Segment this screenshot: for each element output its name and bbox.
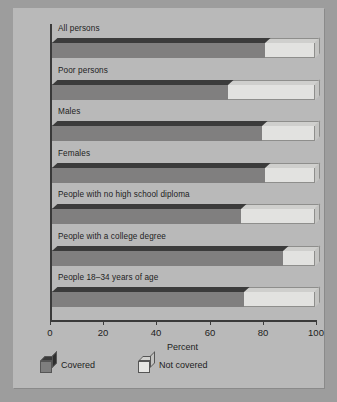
legend-entry-not-covered: Not covered (138, 353, 208, 377)
bar-covered-top-face (52, 163, 271, 168)
stacked-bar (52, 121, 315, 143)
bar-segment-covered (52, 84, 228, 100)
bar-segment-covered (52, 42, 265, 58)
stacked-bar (52, 204, 315, 226)
bar-not-covered-side-face (315, 79, 320, 100)
bar-covered-top-face (52, 80, 234, 85)
bar-group-label: Males (52, 103, 80, 120)
stacked-bar (52, 246, 315, 268)
stacked-bar (52, 163, 315, 185)
bar-segment-covered (52, 291, 244, 307)
scanned-page: All personsPoor personsMalesFemalesPeopl… (13, 8, 324, 388)
bar-group-label: People 18–34 years of age (52, 269, 158, 286)
bar-covered-top-face (52, 287, 250, 292)
legend-label-covered: Covered (61, 360, 95, 370)
bar-group: Poor persons (52, 62, 315, 103)
bar-segment-covered (52, 250, 283, 266)
bar-group: People with a college degree (52, 228, 315, 269)
covered-swatch-cube-icon (40, 356, 54, 374)
bar-not-covered-side-face (315, 286, 320, 307)
x-axis-title: Percent (25, 342, 315, 352)
bar-not-covered-side-face (315, 245, 320, 266)
x-axis-tick-label: 100 (308, 327, 324, 338)
x-axis-tick (50, 320, 51, 325)
bar-covered-top-face (52, 246, 289, 251)
x-axis-tick-label: 60 (205, 327, 216, 338)
legend-entry-covered: Covered (40, 353, 95, 377)
stacked-bar (52, 38, 315, 60)
bar-not-covered-side-face (315, 203, 320, 224)
x-axis-tick (103, 320, 104, 325)
x-axis-tick-label: 20 (98, 327, 109, 338)
bar-group-label: Females (52, 145, 90, 162)
bar-covered-top-face (52, 204, 247, 209)
x-axis-line (50, 320, 316, 322)
bar-group: All persons (52, 20, 315, 61)
bar-not-covered-side-face (315, 120, 320, 141)
x-axis-tick-label: 40 (151, 327, 162, 338)
chart-plot-area: All personsPoor personsMalesFemalesPeopl… (25, 20, 315, 320)
bar-covered-top-face (52, 38, 271, 43)
bar-segment-covered (52, 167, 265, 183)
bar-group: People 18–34 years of age (52, 269, 315, 310)
bar-covered-top-face (52, 121, 268, 126)
bar-segment-covered (52, 208, 241, 224)
bar-segment-covered (52, 125, 262, 141)
bar-group: Males (52, 103, 315, 144)
x-axis-tick-label: 0 (47, 327, 52, 338)
x-axis-tick (316, 320, 317, 325)
x-axis-tick-label: 80 (258, 327, 269, 338)
bar-not-covered-side-face (315, 37, 320, 58)
legend-label-not-covered: Not covered (159, 360, 208, 370)
x-axis-tick (210, 320, 211, 325)
chart-legend: Covered Not covered (38, 353, 318, 379)
bar-group-label: All persons (52, 20, 100, 37)
stacked-bar (52, 287, 315, 309)
not-covered-swatch-cube-icon (138, 356, 152, 374)
bar-group: People with no high school diploma (52, 186, 315, 227)
x-axis-tick (156, 320, 157, 325)
bar-not-covered-side-face (315, 162, 320, 183)
bar-group-label: People with no high school diploma (52, 186, 190, 203)
bar-group-label: People with a college degree (52, 228, 166, 245)
stacked-bar (52, 80, 315, 102)
x-axis-tick (263, 320, 264, 325)
bar-group: Females (52, 145, 315, 186)
bar-group-label: Poor persons (52, 62, 108, 79)
